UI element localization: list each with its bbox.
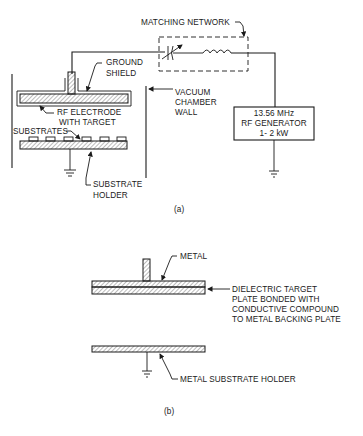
electrode-stem	[68, 72, 75, 94]
network-to-generator-wire	[231, 53, 275, 107]
generator-label: RF GENERATOR	[241, 119, 307, 128]
rf-sputtering-diagram: GROUND SHIELD RF ELECTRODE WITH TARGET S…	[0, 0, 363, 436]
matching-network-box	[159, 37, 248, 71]
dielectric-label-2: PLATE BONDED WITH	[232, 295, 320, 304]
generator-power: 1- 2 kW	[260, 129, 289, 138]
matching-network-label: MATCHING NETWORK	[141, 18, 230, 27]
rf-electrode-plate	[20, 94, 128, 103]
matching-network-leader	[235, 22, 244, 36]
substrate-holder-label: SUBSTRATE	[93, 180, 143, 189]
ground-shield-label-2: SHIELD	[106, 69, 136, 78]
metal-leader	[162, 256, 177, 280]
ground-shield-label: GROUND	[106, 58, 143, 67]
metal-substrate-holder	[92, 346, 205, 352]
metal-backing-plate	[92, 281, 205, 287]
dielectric-target-plate	[92, 287, 205, 294]
substrate-holder	[20, 141, 127, 149]
dielectric-label-1: DIELECTRIC TARGET	[232, 285, 317, 294]
vacuum-wall-label-2: CHAMBER	[175, 98, 217, 107]
rf-electrode-label: RF ELECTRODE	[57, 108, 122, 117]
rf-electrode-label-2: WITH TARGET	[59, 118, 116, 127]
metal-holder-label: METAL SUBSTRATE HOLDER	[180, 375, 296, 384]
metal-holder-leader	[160, 354, 178, 379]
holder-ground-icon	[64, 170, 76, 176]
generator-frequency: 13.56 MHz	[254, 109, 295, 118]
figure-b: METAL DIELECTRIC TARGET PLATE BONDED WIT…	[92, 252, 341, 416]
caption-a: (a)	[174, 205, 184, 214]
inductor-icon	[203, 50, 231, 53]
vacuum-wall-label: VACUUM	[175, 88, 211, 97]
dielectric-label-3: CONDUCTIVE COMPOUND	[232, 305, 339, 314]
rf-electrode-leader	[40, 106, 54, 113]
diagram-canvas: GROUND SHIELD RF ELECTRODE WITH TARGET S…	[0, 0, 363, 436]
metal-stem	[143, 259, 150, 281]
substrate-holder-leader	[86, 152, 91, 185]
vacuum-wall-label-3: WALL	[175, 108, 198, 117]
substrates-label: SUBSTRATES	[13, 127, 68, 136]
substrates	[29, 137, 126, 141]
holder-b-ground-icon	[142, 371, 152, 377]
metal-label: METAL	[180, 252, 208, 261]
substrate-holder-label-2: HOLDER	[93, 191, 128, 200]
ground-shield-leader	[87, 63, 102, 91]
caption-b: (b)	[164, 407, 174, 416]
dielectric-label-4: TO METAL BACKING PLATE	[232, 315, 341, 324]
figure-a: GROUND SHIELD RF ELECTRODE WITH TARGET S…	[12, 18, 314, 214]
generator-ground-icon	[269, 171, 279, 177]
